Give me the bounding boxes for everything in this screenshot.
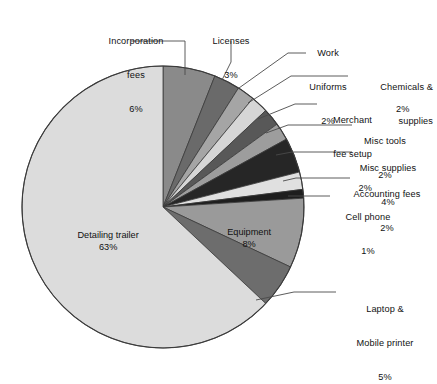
slice-label-work-uniforms-line1: Work xyxy=(299,48,357,59)
slice-label-laptop-printer-line2: Mobile printer xyxy=(340,338,430,349)
slice-label-detailing-trailer-line1: Detailing trailer xyxy=(77,230,138,240)
slice-value-cell-phone: 1% xyxy=(332,246,404,257)
slice-label-laptop-printer-line1: Laptop & xyxy=(340,304,430,315)
slice-label-incorporation-fees-line2: fees xyxy=(100,70,172,81)
slice-value-incorporation-fees: 6% xyxy=(100,104,172,115)
slice-label-licenses-line1: Licenses xyxy=(199,36,263,47)
slice-label-equipment: Equipment 8% xyxy=(206,216,282,262)
slice-label-cell-phone: Cell phone 1% xyxy=(332,190,404,280)
slice-value-laptop-printer: 5% xyxy=(340,372,430,383)
slice-label-incorporation-fees-line1: Incorporation xyxy=(100,36,172,47)
slice-label-licenses: Licenses 3% xyxy=(199,14,263,104)
slice-value-licenses: 3% xyxy=(199,70,263,81)
slice-label-incorporation-fees: Incorporation fees 6% xyxy=(100,14,172,137)
slice-label-laptop-printer: Laptop & Mobile printer 5% xyxy=(340,282,430,384)
slice-value-equipment: 8% xyxy=(242,239,255,249)
slice-label-cell-phone-line1: Cell phone xyxy=(332,212,404,223)
slice-value-detailing-trailer: 63% xyxy=(99,242,117,252)
slice-label-equipment-line1: Equipment xyxy=(227,227,271,237)
slice-label-detailing-trailer: Detailing trailer 63% xyxy=(57,219,149,265)
